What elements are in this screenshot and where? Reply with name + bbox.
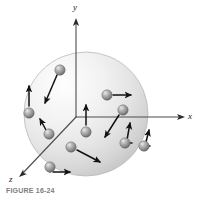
x-axis-label: x [188,112,192,121]
particle [102,90,112,100]
particle [118,105,128,115]
particle [55,65,65,75]
particle [81,127,91,137]
particle [66,142,76,152]
particle [139,141,149,151]
particle [24,108,34,118]
figure-canvas [0,0,200,198]
velocity-arrow-10 [146,130,149,142]
z-axis-label: z [9,175,13,184]
kinetic-theory-figure: y x z FIGURE 16-24 [0,0,200,198]
y-axis-label: y [73,3,77,12]
particle [44,129,54,139]
figure-caption: FIGURE 16-24 [6,187,126,198]
particle [120,138,130,148]
particle [45,162,55,172]
